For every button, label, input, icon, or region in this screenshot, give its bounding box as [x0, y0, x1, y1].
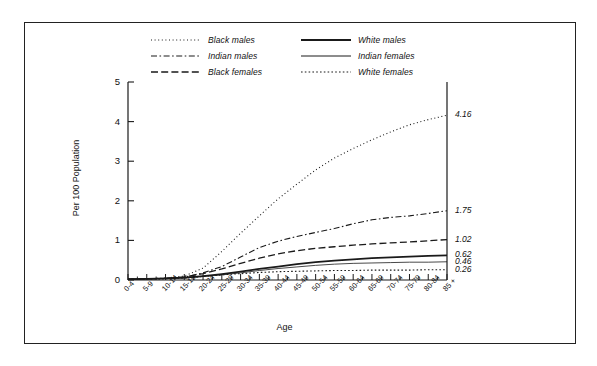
y-tick-label: 0	[104, 274, 120, 285]
y-tick-label: 4	[104, 116, 120, 127]
series-line-black-males	[128, 115, 447, 279]
series-end-label-white-females: 0.26	[455, 264, 472, 274]
figure-container: Black males White males Indian males Ind…	[0, 0, 597, 366]
series-line-indian-males	[128, 211, 447, 280]
series-end-label-black-males: 4.16	[455, 109, 472, 119]
y-tick-label: 5	[104, 76, 120, 87]
series-end-label-black-females: 1.02	[455, 234, 472, 244]
series-end-label-indian-males: 1.75	[455, 205, 472, 215]
plot-svg	[0, 0, 597, 366]
x-axis-title: Age	[277, 322, 293, 332]
y-axis-title: Per 100 Population	[71, 118, 81, 238]
y-tick-label: 1	[104, 234, 120, 245]
y-tick-label: 2	[104, 195, 120, 206]
y-tick-label: 3	[104, 155, 120, 166]
